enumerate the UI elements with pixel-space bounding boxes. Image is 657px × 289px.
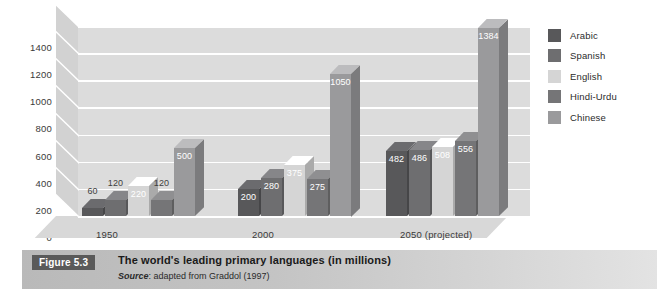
- legend-swatch: [548, 49, 561, 62]
- bar: 508: [432, 147, 453, 216]
- bar: 556: [455, 141, 476, 216]
- legend-label: Chinese: [570, 112, 606, 123]
- y-axis: 0200400600800100012001400: [2, 4, 52, 242]
- figure-source: Source: adapted from Graddol (1997): [118, 271, 270, 281]
- figure-container: 0200400600800100012001400 60120220120500…: [0, 0, 657, 289]
- legend-item[interactable]: Chinese: [548, 108, 653, 126]
- y-axis-tick-label: 1000: [8, 97, 52, 107]
- bar-group: 60120220120500: [82, 6, 195, 216]
- legend-swatch: [548, 29, 561, 42]
- bar: 486: [409, 150, 430, 216]
- bar-group: 4824865085561384: [386, 6, 499, 216]
- legend-swatch: [548, 111, 561, 124]
- figure-number-badge: Figure 5.3: [32, 255, 95, 270]
- chart-legend: ArabicSpanishEnglishHindi-UrduChinese: [548, 26, 653, 129]
- x-axis-tick-label: 2050 (projected): [400, 229, 472, 240]
- bar-side: [195, 139, 204, 216]
- legend-swatch: [548, 70, 561, 83]
- bar-face: [478, 28, 499, 216]
- bar: 375: [284, 165, 305, 216]
- bar-value-label: 556: [455, 145, 476, 154]
- x-axis-tick-label: 1950: [96, 229, 118, 240]
- bar: 120: [151, 200, 172, 216]
- legend-item[interactable]: Hindi-Urdu: [548, 88, 653, 106]
- bar-group: 2002803752751050: [238, 6, 351, 216]
- source-word: Source: [118, 271, 149, 281]
- bar-value-label: 500: [174, 152, 195, 161]
- bar-value-label: 280: [261, 182, 282, 191]
- y-axis-tick-label: 800: [8, 124, 52, 134]
- source-text: : adapted from Graddol (1997): [149, 271, 270, 281]
- bar: 275: [307, 179, 328, 216]
- bar-value-label: 120: [105, 179, 126, 188]
- bar-face: [330, 74, 351, 217]
- y-axis-tick-label: 400: [8, 179, 52, 189]
- legend-swatch: [548, 90, 561, 103]
- bar: 1050: [330, 74, 351, 217]
- bar: 500: [174, 148, 195, 216]
- bar-value-label: 1384: [478, 32, 499, 41]
- bar-value-label: 375: [284, 169, 305, 178]
- gridline: [78, 216, 530, 218]
- bar: 200: [238, 189, 259, 216]
- bar: 1384: [478, 28, 499, 216]
- bar: 120: [105, 200, 126, 216]
- y-axis-tick-label: 1200: [8, 70, 52, 80]
- y-axis-tick-label: 600: [8, 152, 52, 162]
- legend-label: Spanish: [570, 50, 605, 61]
- bar-side: [351, 65, 360, 216]
- bar-value-label: 220: [128, 190, 149, 199]
- y-axis-tick-label: 1400: [8, 43, 52, 53]
- bar-face: [82, 208, 103, 216]
- legend-item[interactable]: Spanish: [548, 47, 653, 65]
- bar-face: [105, 200, 126, 216]
- bar-value-label: 60: [82, 187, 103, 196]
- bar: 280: [261, 178, 282, 216]
- legend-item[interactable]: Arabic: [548, 26, 653, 44]
- figure-title: The world's leading primary languages (i…: [118, 254, 391, 266]
- plot-area: 6012022012050020028037527510504824865085…: [56, 4, 530, 242]
- legend-label: Hindi-Urdu: [570, 91, 617, 102]
- legend-item[interactable]: English: [548, 67, 653, 85]
- bar-value-label: 275: [307, 183, 328, 192]
- x-axis-tick-label: 2000: [252, 229, 274, 240]
- y-axis-tick-label: 200: [8, 206, 52, 216]
- bar-chart: 0200400600800100012001400 60120220120500…: [0, 4, 530, 242]
- bar-face: [151, 200, 172, 216]
- bar-side: [499, 19, 508, 216]
- bar-value-label: 200: [238, 193, 259, 202]
- legend-label: English: [570, 71, 602, 82]
- bar-value-label: 1050: [330, 78, 351, 87]
- bar: 482: [386, 151, 407, 216]
- bar: 220: [128, 186, 149, 216]
- bar: 60: [82, 208, 103, 216]
- bar-value-label: 508: [432, 151, 453, 160]
- bar-value-label: 482: [386, 155, 407, 164]
- figure-caption-bar: Figure 5.3 The world's leading primary l…: [22, 250, 657, 289]
- legend-label: Arabic: [570, 30, 598, 41]
- bar-value-label: 120: [151, 179, 172, 188]
- bar-value-label: 486: [409, 154, 430, 163]
